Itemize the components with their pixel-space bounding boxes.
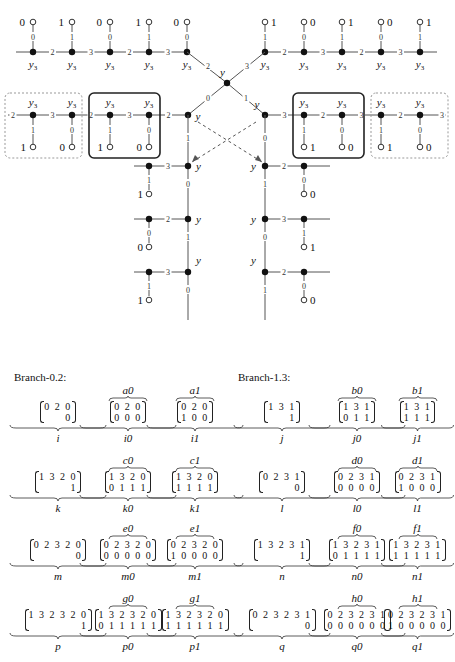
matrix-row: 1 3 2 3 1 xyxy=(393,539,442,550)
leaf-node xyxy=(107,144,113,150)
matrix-body: 0 2 3 11 0 0 0 xyxy=(395,471,441,493)
matrix-top-label: g1 xyxy=(145,592,245,604)
edge-label: 3 xyxy=(360,111,364,120)
edge-label: 2 xyxy=(128,48,132,57)
y3-label: y3 xyxy=(67,96,77,110)
matrix-row: 0 0 0 xyxy=(114,412,142,423)
matrix-row: 0 xyxy=(253,620,312,631)
y3-label: y3 xyxy=(260,58,270,72)
edge-label: 3 xyxy=(166,162,170,171)
edge-label: 2 xyxy=(360,48,364,57)
node xyxy=(146,112,152,118)
leaf-value: 0 xyxy=(60,141,66,153)
matrix-name: n1 xyxy=(380,570,455,582)
leaf-value: 0 xyxy=(20,16,26,28)
matrix-row: 0 2 3 2 3 1 xyxy=(388,609,447,620)
matrix-body: 1 3 2 01 xyxy=(35,471,81,493)
leaf-value: 0 xyxy=(310,16,316,28)
y-label: y xyxy=(195,254,201,266)
edge-label: 1 xyxy=(263,180,267,189)
node xyxy=(146,216,152,222)
matrix-p1: g11 3 2 3 2 01 1 1 1 1 1p1 xyxy=(145,592,245,652)
node xyxy=(417,112,423,118)
edge-label: 1 xyxy=(340,33,344,42)
leaf-value: 0 xyxy=(97,16,103,28)
branch-right-title: Branch-1.3: xyxy=(238,371,290,383)
node xyxy=(146,163,152,169)
leaf-node xyxy=(301,191,307,197)
matrix-row: 0 1 1 xyxy=(343,412,371,423)
matrix-q1: h10 2 3 2 3 11 0 0 0 0 0q1 xyxy=(380,592,455,652)
leaf-node xyxy=(301,297,307,303)
node xyxy=(146,49,152,55)
leaf-value: 1 xyxy=(387,141,393,153)
matrix-name: p1 xyxy=(145,640,245,652)
edge-label: 0 xyxy=(206,94,210,103)
matrix-top-label: e1 xyxy=(145,522,245,534)
node xyxy=(185,216,191,222)
y3-label: y3 xyxy=(337,58,347,72)
y3-label: y3 xyxy=(105,96,115,110)
matrix-body: 1 3 10 1 1 xyxy=(339,401,375,423)
matrix-row: 1 1 1 1 1 xyxy=(393,550,442,561)
matrix-row: 1 3 2 0 xyxy=(176,471,214,482)
matrix-body: 1 3 2 01 1 1 1 xyxy=(172,471,218,493)
matrix-body: 0 2 3 10 0 0 0 xyxy=(334,471,380,493)
leaf-node xyxy=(339,19,345,25)
matrix-row: 0 2 3 1 xyxy=(399,471,437,482)
node xyxy=(301,163,307,169)
edge-label: 3 xyxy=(166,268,170,277)
leaf-node xyxy=(184,19,190,25)
node xyxy=(69,49,75,55)
matrix-body: 1 3 11 xyxy=(264,401,300,423)
leaf-node xyxy=(378,144,384,150)
matrix-n1: f11 3 2 3 11 1 1 1 1n1 xyxy=(380,522,455,582)
matrix-body: 1 3 2 3 11 1 1 1 1 xyxy=(389,539,446,561)
edge-label: 3 xyxy=(89,48,93,57)
matrix-k1: c11 3 2 01 1 1 1k1 xyxy=(145,454,245,514)
edge-label: 2 xyxy=(51,48,55,57)
edge-label: 0 xyxy=(147,229,151,238)
y-label: y xyxy=(250,254,256,266)
matrix-i1: a10 2 01 0 0i1 xyxy=(145,384,245,444)
matrix-row: 0 2 3 2 3 1 xyxy=(253,609,312,620)
matrix-body: 0 2 01 0 0 xyxy=(177,401,213,423)
edge-label: 1 xyxy=(263,286,267,295)
edge-label: 1 xyxy=(263,33,267,42)
matrix-m1: e10 2 3 2 01 0 0 0 0m1 xyxy=(145,522,245,582)
node xyxy=(378,49,384,55)
edge-label: 1 xyxy=(302,126,306,135)
node xyxy=(301,112,307,118)
node xyxy=(185,269,191,275)
edge-label: 3 xyxy=(321,48,325,57)
edge-label: 1 xyxy=(418,33,422,42)
matrix-row: 1 0 0 0 0 xyxy=(171,550,220,561)
node xyxy=(224,80,230,86)
leaf-value: 1 xyxy=(59,16,65,28)
y3-label: y3 xyxy=(182,58,192,72)
edge-label: 3 xyxy=(166,48,170,57)
y3-label: y3 xyxy=(376,58,386,72)
edge-label: 3 xyxy=(128,111,132,120)
matrix-row: 1 3 2 3 1 xyxy=(258,539,307,550)
matrix-top-label: d1 xyxy=(380,454,455,466)
leaf-node xyxy=(301,244,307,250)
leaf-node xyxy=(262,19,268,25)
leaf-node xyxy=(107,19,113,25)
matrix-row: 1 3 2 3 1 xyxy=(333,539,382,550)
y3-label: y3 xyxy=(337,96,347,110)
leaf-value: 1 xyxy=(310,141,316,153)
node xyxy=(185,163,191,169)
matrix-row: 0 2 3 2 0 xyxy=(34,539,83,550)
matrix-row: 0 2 3 1 xyxy=(338,471,376,482)
matrix-row: 1 1 1 xyxy=(404,412,432,423)
y3-label: y3 xyxy=(376,96,386,110)
leaf-node xyxy=(417,144,423,150)
matrix-name: j1 xyxy=(380,432,455,444)
node xyxy=(301,216,307,222)
y3-label: y3 xyxy=(28,96,38,110)
leaf-node xyxy=(146,19,152,25)
edge-label: 2 xyxy=(11,111,15,120)
leaf-node xyxy=(339,144,345,150)
leaf-node xyxy=(146,144,152,150)
